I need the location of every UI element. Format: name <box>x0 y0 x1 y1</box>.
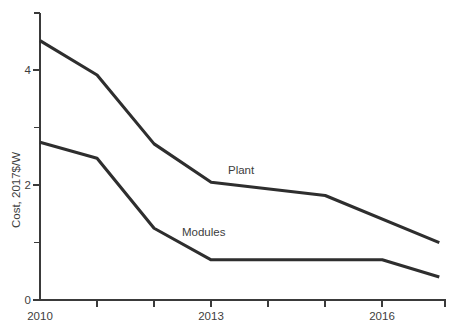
line-chart: 4 2 0 2010 2013 2016 Cost, 2017$/W Plant… <box>0 0 452 328</box>
y-tick-label-4: 4 <box>25 64 32 76</box>
y-tick-label-2: 2 <box>25 179 31 191</box>
series-annotation-plant: Plant <box>228 164 255 176</box>
x-tick-label-2010: 2010 <box>27 310 53 322</box>
y-axis-title: Cost, 2017$/W <box>10 152 22 228</box>
x-tick-label-2013: 2013 <box>198 310 224 322</box>
chart-container: 4 2 0 2010 2013 2016 Cost, 2017$/W Plant… <box>0 0 452 328</box>
series-annotation-modules: Modules <box>182 226 226 238</box>
y-tick-label-0: 0 <box>25 294 31 306</box>
chart-background <box>0 0 452 328</box>
x-tick-label-2016: 2016 <box>369 310 395 322</box>
